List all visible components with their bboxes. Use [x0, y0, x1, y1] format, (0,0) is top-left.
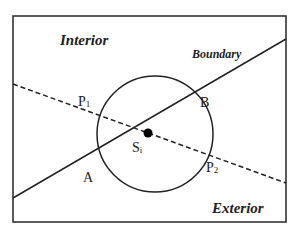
point-p1-label: P1: [78, 94, 90, 109]
boundary-label: Boundary: [191, 47, 242, 61]
diagram-canvas: Interior Exterior Boundary P1 B Si A P2: [0, 0, 298, 234]
point-p2-label: P2: [206, 160, 218, 175]
point-b-label: B: [200, 95, 209, 110]
exterior-label: Exterior: [211, 200, 264, 216]
neighborhood-circle: [97, 76, 213, 192]
sample-point-dot: [144, 129, 153, 138]
boundary-line: [13, 39, 286, 198]
point-si-label: Si: [132, 140, 143, 155]
interior-label: Interior: [59, 32, 109, 48]
point-a-label: A: [83, 170, 94, 185]
